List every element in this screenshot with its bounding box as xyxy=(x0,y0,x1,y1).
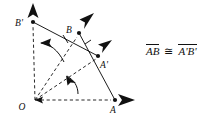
arrowhead-Aprime xyxy=(98,40,112,53)
rotation-arcs xyxy=(41,43,78,94)
tick-BprimeAprime xyxy=(63,35,68,43)
dot-Bprime xyxy=(31,20,35,24)
label-point-B: B xyxy=(66,25,72,35)
segment-notation-AB: AB xyxy=(146,44,159,58)
dot-Aprime xyxy=(96,54,100,58)
congruence-statement: AB ≅ A'B' xyxy=(146,41,210,61)
label-point-O: O xyxy=(19,102,26,112)
ray-O-to-Bprime xyxy=(33,26,35,100)
segment-notation-ApBp: A'B' xyxy=(178,44,196,58)
ray-O-to-Aprime xyxy=(35,59,96,100)
dot-A xyxy=(113,98,117,102)
label-point-A: A xyxy=(109,105,116,115)
arrowhead-A xyxy=(118,94,135,106)
rotation-arc-upper-path xyxy=(41,43,64,62)
arrowhead-B xyxy=(80,13,95,29)
rotation-arc-upper-arrowhead xyxy=(40,39,52,48)
congruent-symbol: ≅ xyxy=(163,45,174,58)
arrowhead-Bprime xyxy=(28,3,39,18)
ray-O-to-B xyxy=(35,37,77,100)
dot-B xyxy=(77,31,81,35)
tick-BA xyxy=(85,40,91,44)
figure-page: O A B A' B' AB ≅ A'B' xyxy=(0,0,213,120)
rotation-arc-lower-arrowhead xyxy=(66,76,76,86)
point-arrowheads xyxy=(28,3,136,106)
label-point-Aprime: A' xyxy=(99,60,109,70)
label-point-Bprime: B' xyxy=(15,18,24,28)
